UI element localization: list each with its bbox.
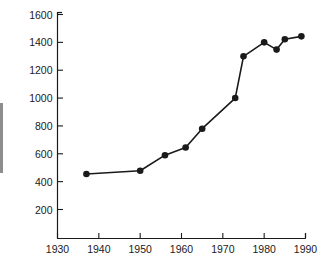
y-axis-tick-label: 600: [35, 148, 53, 160]
x-axis-tick-label: 1940: [87, 243, 110, 255]
data-point-marker: [273, 46, 280, 53]
chart-container: 2004006008001000120014001600 19301940195…: [0, 0, 331, 274]
data-point-marker: [240, 53, 247, 60]
y-axis-tick-label: 1600: [29, 9, 52, 21]
data-point-marker: [282, 36, 289, 43]
x-axis-ticks: [58, 233, 306, 239]
axis-lines: [57, 12, 306, 239]
data-line-series-1: [86, 36, 301, 174]
data-point-marker: [199, 125, 206, 132]
data-point-marker: [232, 95, 239, 102]
data-point-marker: [261, 39, 268, 46]
x-axis-tick-label: 1980: [252, 243, 275, 255]
data-point-marker: [162, 152, 169, 159]
x-axis-tick-label: 1990: [294, 243, 317, 255]
x-axis-tick-label: 1960: [170, 243, 193, 255]
y-axis-ticks: [58, 15, 64, 210]
y-axis-tick-label: 800: [35, 120, 53, 132]
y-axis-tick-label: 1000: [29, 92, 52, 104]
y-axis-tick-label: 200: [35, 204, 53, 216]
data-markers-series-1: [83, 33, 305, 177]
y-axis-tick-label: 400: [35, 176, 53, 188]
y-axis-tick-label: 1200: [29, 64, 52, 76]
x-axis-tick-label: 1930: [46, 243, 69, 255]
x-axis-tick-label: 1970: [211, 243, 234, 255]
data-point-marker: [182, 144, 189, 151]
y-axis-tick-label: 1400: [29, 36, 52, 48]
data-point-marker: [137, 167, 144, 174]
data-point-marker: [298, 33, 305, 40]
data-point-marker: [83, 171, 90, 178]
x-axis-tick-label: 1950: [128, 243, 151, 255]
